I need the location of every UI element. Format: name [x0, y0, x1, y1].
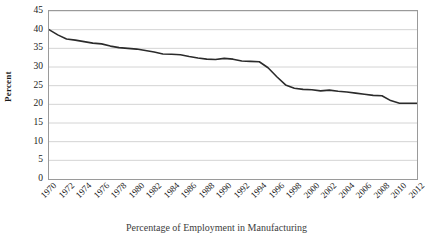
y-axis-tick-label: 25 [34, 81, 44, 91]
gridlines [49, 11, 417, 160]
x-axis-tick-label: 1972 [57, 181, 76, 200]
x-axis-tick-label: 1982 [144, 181, 163, 200]
y-axis-tick-label: 45 [34, 6, 44, 16]
y-axis-tick-label: 35 [34, 44, 44, 54]
x-axis-tick-label: 2004 [337, 181, 356, 200]
figure-container: Percent 051015202530354045 1970197219741… [0, 0, 433, 233]
y-axis-tick-label: 5 [38, 156, 43, 166]
x-axis-tick-label: 1984 [162, 181, 181, 200]
x-axis-tick-label: 1998 [285, 181, 304, 200]
x-axis-tick-label: 1990 [215, 181, 234, 200]
x-axis-tick-label: 1976 [92, 181, 111, 200]
x-axis-tick-label: 1996 [267, 181, 286, 200]
figure-caption: Percentage of Employment in Manufacturin… [0, 222, 433, 233]
x-axis-tick-label: 1994 [250, 181, 269, 200]
x-axis-tick-label: 2000 [302, 181, 321, 200]
x-axis-tick-label: 2008 [372, 181, 391, 200]
x-axis-tick-label: 2006 [355, 181, 374, 200]
x-axis-tick-label: 1992 [232, 181, 251, 200]
y-axis-tick-label: 10 [34, 137, 44, 147]
y-axis-tick-label: 20 [34, 100, 44, 110]
plot-area [48, 10, 418, 180]
y-axis-tick-label: 15 [34, 118, 44, 128]
line-chart-svg [49, 11, 417, 179]
x-axis-tick-label: 1980 [127, 181, 146, 200]
x-axis-tick-label: 1974 [74, 181, 93, 200]
x-axis-tick-label: 1970 [39, 181, 58, 200]
y-axis-tick-label: 30 [34, 62, 44, 72]
x-axis-tick-label: 2010 [390, 181, 409, 200]
x-axis-tick-label: 1978 [109, 181, 128, 200]
x-axis-tick-label: 1986 [179, 181, 198, 200]
x-axis-tick-label: 1988 [197, 181, 216, 200]
data-line-series-percent [49, 30, 417, 104]
x-axis-tick-label: 2002 [320, 181, 339, 200]
y-axis-tick-label: 40 [34, 25, 44, 35]
x-axis-tick-label: 2012 [407, 181, 426, 200]
